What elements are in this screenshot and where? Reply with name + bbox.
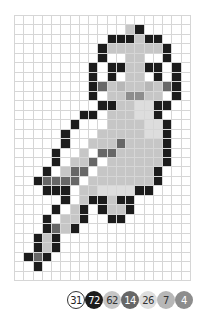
grid-cell[interactable] [163, 253, 172, 262]
grid-cell[interactable] [15, 35, 24, 44]
grid-cell[interactable] [182, 186, 191, 195]
grid-cell[interactable] [61, 149, 70, 158]
grid-cell[interactable] [154, 120, 163, 129]
grid-cell[interactable] [43, 63, 52, 72]
grid-cell[interactable] [34, 262, 43, 271]
grid-cell[interactable] [135, 73, 144, 82]
grid-cell[interactable] [154, 82, 163, 91]
grid-cell[interactable] [108, 262, 117, 271]
grid-cell[interactable] [43, 130, 52, 139]
grid-cell[interactable] [80, 177, 89, 186]
grid-cell[interactable] [108, 92, 117, 101]
grid-cell[interactable] [89, 73, 98, 82]
grid-cell[interactable] [15, 262, 24, 271]
grid-cell[interactable] [182, 63, 191, 72]
grid-cell[interactable] [182, 44, 191, 53]
grid-cell[interactable] [52, 139, 61, 148]
grid-cell[interactable] [126, 205, 135, 214]
grid-cell[interactable] [61, 262, 70, 271]
grid-cell[interactable] [61, 120, 70, 129]
grid-cell[interactable] [135, 272, 144, 281]
grid-cell[interactable] [117, 262, 126, 271]
grid-cell[interactable] [172, 16, 181, 25]
grid-cell[interactable] [52, 25, 61, 34]
grid-cell[interactable] [117, 149, 126, 158]
grid-cell[interactable] [98, 243, 107, 252]
grid-cell[interactable] [80, 54, 89, 63]
grid-cell[interactable] [135, 196, 144, 205]
grid-cell[interactable] [43, 234, 52, 243]
grid-cell[interactable] [80, 215, 89, 224]
grid-cell[interactable] [135, 120, 144, 129]
grid-cell[interactable] [182, 253, 191, 262]
grid-cell[interactable] [34, 16, 43, 25]
grid-cell[interactable] [61, 196, 70, 205]
grid-cell[interactable] [43, 253, 52, 262]
grid-cell[interactable] [71, 158, 80, 167]
grid-cell[interactable] [71, 196, 80, 205]
grid-cell[interactable] [24, 158, 33, 167]
grid-cell[interactable] [98, 139, 107, 148]
grid-cell[interactable] [108, 215, 117, 224]
grid-cell[interactable] [61, 73, 70, 82]
grid-cell[interactable] [108, 16, 117, 25]
grid-cell[interactable] [135, 92, 144, 101]
grid-cell[interactable] [117, 25, 126, 34]
grid-cell[interactable] [43, 92, 52, 101]
grid-cell[interactable] [108, 111, 117, 120]
grid-cell[interactable] [182, 82, 191, 91]
grid-cell[interactable] [71, 224, 80, 233]
grid-cell[interactable] [15, 224, 24, 233]
grid-cell[interactable] [43, 101, 52, 110]
grid-cell[interactable] [61, 158, 70, 167]
grid-cell[interactable] [15, 130, 24, 139]
grid-cell[interactable] [117, 253, 126, 262]
grid-cell[interactable] [34, 44, 43, 53]
grid-cell[interactable] [34, 196, 43, 205]
grid-cell[interactable] [154, 205, 163, 214]
grid-cell[interactable] [126, 16, 135, 25]
grid-cell[interactable] [61, 215, 70, 224]
grid-cell[interactable] [117, 16, 126, 25]
grid-cell[interactable] [52, 35, 61, 44]
grid-cell[interactable] [71, 54, 80, 63]
grid-cell[interactable] [80, 167, 89, 176]
grid-cell[interactable] [34, 253, 43, 262]
grid-cell[interactable] [61, 16, 70, 25]
grid-cell[interactable] [24, 25, 33, 34]
grid-cell[interactable] [108, 25, 117, 34]
grid-cell[interactable] [43, 177, 52, 186]
grid-cell[interactable] [108, 253, 117, 262]
grid-cell[interactable] [163, 82, 172, 91]
grid-cell[interactable] [135, 262, 144, 271]
grid-cell[interactable] [52, 167, 61, 176]
grid-cell[interactable] [135, 149, 144, 158]
grid-cell[interactable] [117, 63, 126, 72]
grid-cell[interactable] [15, 215, 24, 224]
grid-cell[interactable] [80, 63, 89, 72]
grid-cell[interactable] [126, 82, 135, 91]
grid-cell[interactable] [154, 54, 163, 63]
grid-cell[interactable] [15, 186, 24, 195]
grid-cell[interactable] [80, 262, 89, 271]
grid-cell[interactable] [24, 73, 33, 82]
grid-cell[interactable] [34, 130, 43, 139]
grid-cell[interactable] [163, 139, 172, 148]
grid-cell[interactable] [145, 63, 154, 72]
grid-cell[interactable] [89, 205, 98, 214]
grid-cell[interactable] [61, 63, 70, 72]
grid-cell[interactable] [182, 35, 191, 44]
grid-cell[interactable] [182, 92, 191, 101]
grid-cell[interactable] [163, 243, 172, 252]
grid-cell[interactable] [61, 167, 70, 176]
grid-cell[interactable] [145, 215, 154, 224]
grid-cell[interactable] [172, 101, 181, 110]
grid-cell[interactable] [154, 177, 163, 186]
grid-cell[interactable] [71, 149, 80, 158]
grid-cell[interactable] [117, 215, 126, 224]
grid-cell[interactable] [15, 177, 24, 186]
grid-cell[interactable] [182, 158, 191, 167]
grid-cell[interactable] [24, 215, 33, 224]
grid-cell[interactable] [117, 35, 126, 44]
grid-cell[interactable] [98, 253, 107, 262]
